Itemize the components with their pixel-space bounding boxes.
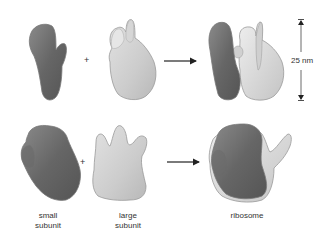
- ribosome-assembly-diagram: + +: [0, 0, 330, 242]
- large-subunit-bottom: [93, 126, 147, 201]
- plus-sign-bottom: +: [80, 157, 85, 167]
- plus-sign-top: +: [84, 55, 89, 65]
- ribosome-bottom: [209, 124, 291, 202]
- ribosome-label: ribosome: [222, 211, 272, 221]
- large-subunit-label-line2: subunit: [108, 221, 148, 231]
- small-subunit-label-line2: subunit: [28, 221, 68, 231]
- large-subunit-label: large subunit: [108, 211, 148, 231]
- small-subunit-bottom: [21, 125, 80, 200]
- small-subunit-label-line1: small: [28, 211, 68, 221]
- large-subunit-label-line1: large: [108, 211, 148, 221]
- ribosome-top: [209, 22, 284, 100]
- diagram-canvas: + +: [0, 0, 330, 242]
- small-subunit-top: [29, 24, 66, 100]
- scale-bar-label: 25 nm: [290, 56, 314, 65]
- small-subunit-label: small subunit: [28, 211, 68, 231]
- large-subunit-top: [109, 20, 156, 100]
